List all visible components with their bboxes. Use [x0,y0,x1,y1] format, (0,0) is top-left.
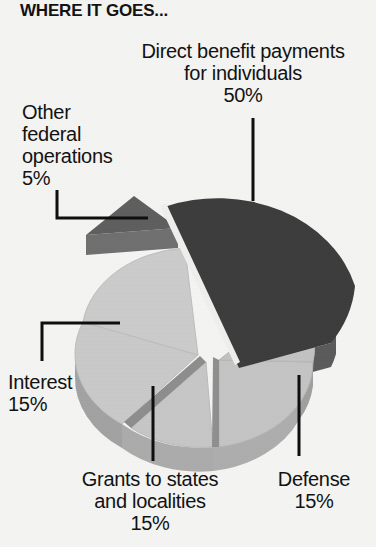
slice-label-other-federal: Other federal operations 5% [22,101,162,189]
chart-page: WHERE IT GOES... [0,0,376,547]
slice-label-direct-benefit: Direct benefit payments for individuals … [118,40,368,106]
slice-label-defense: Defense 15% [255,468,373,512]
slice-gap-defense-grants [212,357,219,447]
slice-label-grants: Grants to states and localities 15% [55,468,245,534]
slice-label-interest: Interest 15% [8,371,138,415]
